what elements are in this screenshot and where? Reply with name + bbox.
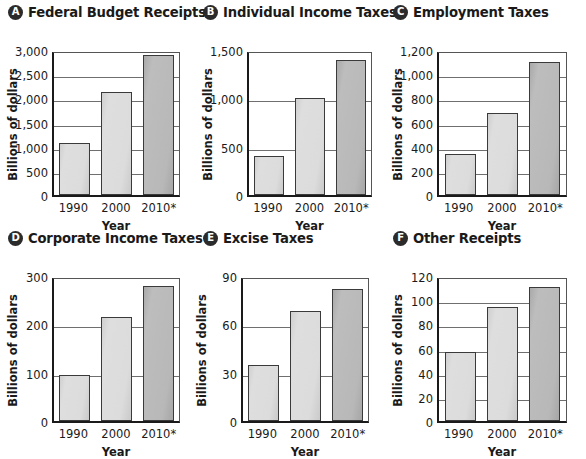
x-tick-label: 2010* [137, 427, 180, 441]
plot-area: Billions of dollars010020030019902000201… [0, 250, 195, 448]
bar-2000 [295, 98, 325, 195]
y-tick-label: 0 [387, 416, 433, 430]
panel-badge-icon: D [8, 231, 23, 246]
bar-2010 [529, 287, 560, 421]
y-tick-label: 3,000 [2, 45, 48, 59]
panel-title: Federal Budget Receipts [28, 5, 206, 20]
axes-frame [437, 278, 567, 423]
bar-slot [249, 53, 290, 195]
panel-badge-icon: A [8, 5, 23, 20]
bar-slot [96, 279, 138, 421]
x-tick-label: 2010* [524, 201, 567, 215]
bar-series [439, 53, 566, 195]
bar-2000 [290, 311, 321, 421]
y-tick-label: 200 [2, 319, 48, 333]
bar-2000 [101, 92, 132, 195]
bar-slot [290, 53, 331, 195]
x-tick-label: 2010* [524, 427, 567, 441]
axes-frame [247, 52, 372, 197]
bar-slot [285, 279, 327, 421]
y-tick-label: 800 [387, 93, 433, 107]
y-tick-label: 90 [197, 271, 237, 285]
chart-panel-e: EExcise TaxesBillions of dollars03060901… [195, 226, 385, 452]
y-tick-label: 20 [387, 392, 433, 406]
bar-1990 [254, 156, 284, 195]
x-tick-label: 1990 [247, 201, 289, 215]
y-axis-title: Billions of dollars [195, 278, 209, 423]
y-tick-label: 60 [387, 344, 433, 358]
panel-badge-icon: B [203, 5, 218, 20]
bar-slot [481, 53, 523, 195]
x-tick-label: 1990 [52, 201, 95, 215]
panel-header: EExcise Taxes [195, 226, 385, 250]
x-tick-label: 2010* [330, 201, 372, 215]
y-tick-label: 1,200 [387, 45, 433, 59]
y-tick-label: 30 [197, 368, 237, 382]
bar-2000 [487, 307, 518, 421]
bar-2010 [143, 286, 174, 421]
panel-header: CEmployment Taxes [385, 0, 586, 24]
bar-1990 [445, 154, 476, 195]
y-tick-label: 0 [197, 190, 243, 204]
y-tick-label: 0 [197, 416, 237, 430]
x-axis-title: Year [437, 445, 567, 459]
x-tick-label: 2010* [326, 427, 369, 441]
panel-header: DCorporate Income Taxes [0, 226, 195, 250]
axes-frame [437, 52, 567, 197]
x-axis-ticks: 199020002010* [247, 201, 372, 215]
chart-panel-f: FOther ReceiptsBillions of dollars020406… [385, 226, 586, 452]
x-tick-label: 1990 [52, 427, 95, 441]
bar-slot [137, 53, 179, 195]
x-tick-label: 2000 [95, 427, 138, 441]
bar-1990 [59, 375, 90, 421]
bar-slot [439, 279, 481, 421]
axes-frame [241, 278, 369, 423]
bar-2000 [487, 113, 518, 195]
chart-panel-c: CEmployment TaxesBillions of dollars0200… [385, 0, 586, 226]
bar-slot [96, 53, 138, 195]
y-tick-label: 40 [387, 368, 433, 382]
y-tick-label: 2,000 [2, 93, 48, 107]
plot-area: Billions of dollars02004006008001,0001,2… [385, 24, 586, 222]
plot-area: Billions of dollars05001,0001,5001990200… [195, 24, 385, 222]
x-axis-ticks: 199020002010* [52, 201, 180, 215]
y-tick-label: 400 [387, 142, 433, 156]
bar-slot [326, 279, 368, 421]
bar-series [249, 53, 371, 195]
bar-slot [330, 53, 371, 195]
y-axis-title: Billions of dollars [6, 278, 20, 423]
x-axis-ticks: 199020002010* [52, 427, 180, 441]
panel-header: FOther Receipts [385, 226, 586, 250]
bar-series [243, 279, 368, 421]
panel-title: Excise Taxes [223, 231, 313, 246]
x-tick-label: 1990 [437, 201, 480, 215]
x-tick-label: 2010* [137, 201, 180, 215]
x-tick-label: 1990 [437, 427, 480, 441]
x-tick-label: 2000 [95, 201, 138, 215]
x-tick-label: 1990 [241, 427, 284, 441]
panel-title: Other Receipts [413, 231, 521, 246]
y-tick-label: 300 [2, 271, 48, 285]
y-tick-label: 60 [197, 319, 237, 333]
plot-area: Billions of dollars020406080100120199020… [385, 250, 586, 448]
panel-title: Individual Income Taxes [223, 5, 397, 20]
y-axis-title: Billions of dollars [201, 52, 215, 197]
chart-panel-a: AFederal Budget ReceiptsBillions of doll… [0, 0, 195, 226]
y-tick-label: 1,000 [197, 93, 243, 107]
bar-2010 [336, 60, 366, 195]
panel-badge-icon: C [393, 5, 408, 20]
bar-2000 [101, 317, 132, 421]
bar-slot [524, 279, 566, 421]
bar-slot [54, 279, 96, 421]
x-axis-title: Year [241, 445, 369, 459]
chart-panel-b: BIndividual Income TaxesBillions of doll… [195, 0, 385, 226]
x-axis-ticks: 199020002010* [241, 427, 369, 441]
bar-slot [481, 279, 523, 421]
panel-badge-icon: F [393, 231, 408, 246]
y-tick-label: 0 [387, 190, 433, 204]
y-tick-label: 600 [387, 118, 433, 132]
bar-series [54, 53, 179, 195]
bar-slot [524, 53, 566, 195]
axes-frame [52, 52, 180, 197]
plot-area: Billions of dollars0306090199020002010*Y… [195, 250, 385, 448]
